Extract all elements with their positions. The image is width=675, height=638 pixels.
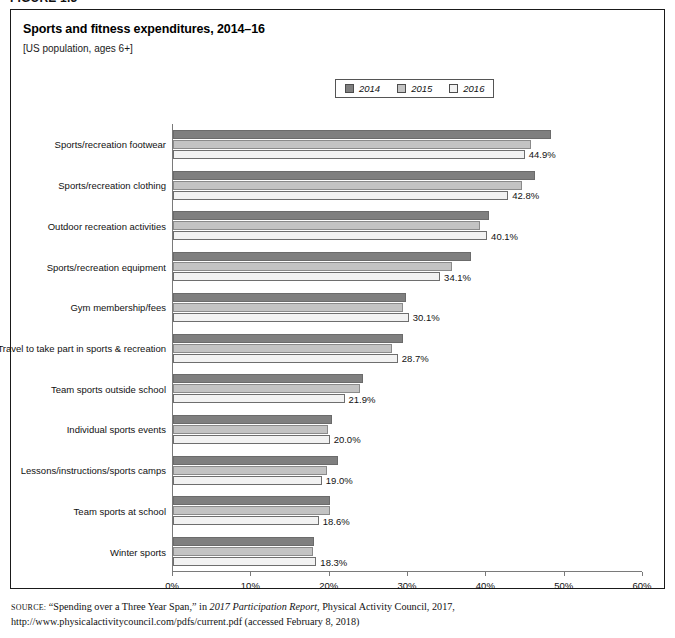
bar-group: Travel to take part in sports & recreati… xyxy=(172,334,642,363)
bar-2014 xyxy=(173,496,330,505)
category-label: Travel to take part in sports & recreati… xyxy=(0,343,166,354)
bar-2014 xyxy=(173,334,403,343)
legend-entry-2014: 2014 xyxy=(345,83,380,94)
x-axis-tick-label: 20% xyxy=(319,580,338,591)
bar-2015 xyxy=(173,547,313,556)
bar-value-label: 30.1% xyxy=(413,312,440,323)
x-axis-tick-label: 10% xyxy=(241,580,260,591)
bar-2015 xyxy=(173,303,403,312)
category-label: Gym membership/fees xyxy=(70,302,166,313)
x-axis-tick-mark xyxy=(642,572,643,576)
bar-value-label: 18.3% xyxy=(320,556,347,567)
category-label: Sports/recreation equipment xyxy=(47,261,166,272)
x-axis-tick-mark xyxy=(172,572,173,576)
bar-value-label: 20.0% xyxy=(334,434,361,445)
bar-value-label: 21.9% xyxy=(349,393,376,404)
category-label: Winter sports xyxy=(110,546,166,557)
bar-2016: 19.0% xyxy=(173,476,322,485)
bar-2016: 18.6% xyxy=(173,516,319,525)
bar-2015 xyxy=(173,140,531,149)
legend-entry-2015: 2015 xyxy=(397,83,432,94)
bar-2014 xyxy=(173,456,338,465)
chart-plot-area: 0%10%20%30%40%50%60%Sports/recreation fo… xyxy=(172,124,642,572)
bar-2016: 18.3% xyxy=(173,557,316,566)
category-label: Outdoor recreation activities xyxy=(48,220,166,231)
x-axis-tick-label: 50% xyxy=(554,580,573,591)
bar-group: Sports/recreation clothing42.8% xyxy=(172,171,642,200)
bar-2015 xyxy=(173,466,327,475)
bar-group: Gym membership/fees30.1% xyxy=(172,293,642,322)
bar-value-label: 42.8% xyxy=(512,190,539,201)
bar-group: Team sports outside school21.9% xyxy=(172,374,642,403)
bar-group: Outdoor recreation activities40.1% xyxy=(172,211,642,240)
bar-2016: 30.1% xyxy=(173,313,409,322)
figure-title: Sports and fitness expenditures, 2014–16 xyxy=(23,22,265,36)
bar-2014 xyxy=(173,171,535,180)
bar-2016: 40.1% xyxy=(173,231,487,240)
category-label: Team sports outside school xyxy=(51,383,166,394)
bar-2015 xyxy=(173,425,328,434)
legend-label-2015: 2015 xyxy=(411,83,432,94)
bar-group: Sports/recreation footwear44.9% xyxy=(172,130,642,159)
x-axis-tick-label: 0% xyxy=(165,580,179,591)
category-label: Sports/recreation footwear xyxy=(55,139,166,150)
category-label: Lessons/instructions/sports camps xyxy=(21,465,166,476)
bar-group: Winter sports18.3% xyxy=(172,537,642,566)
x-axis-tick-label: 30% xyxy=(397,580,416,591)
chart-legend: 201420152016 xyxy=(335,79,494,98)
category-label: Sports/recreation clothing xyxy=(58,180,166,191)
bar-2016: 21.9% xyxy=(173,394,345,403)
bar-2014 xyxy=(173,415,332,424)
figure-subtitle: [US population, ages 6+] xyxy=(23,43,133,54)
source-label: SOURCE: xyxy=(11,603,46,612)
legend-entry-2016: 2016 xyxy=(449,83,484,94)
bar-value-label: 18.6% xyxy=(323,515,350,526)
bar-2014 xyxy=(173,537,314,546)
source-text-1: “Spending over a Three Year Span,” in xyxy=(46,601,209,612)
bar-2016: 44.9% xyxy=(173,150,525,159)
bar-group: Team sports at school18.6% xyxy=(172,496,642,525)
legend-swatch-icon-2014 xyxy=(345,84,354,93)
x-axis-tick-mark xyxy=(564,572,565,576)
category-label: Team sports at school xyxy=(74,505,166,516)
source-italic-title: 2017 Participation Report xyxy=(210,601,318,612)
bar-2014 xyxy=(173,211,489,220)
x-axis-tick-label: 40% xyxy=(476,580,495,591)
bar-value-label: 34.1% xyxy=(444,271,471,282)
legend-label-2014: 2014 xyxy=(359,83,380,94)
bar-2014 xyxy=(173,293,406,302)
bar-2015 xyxy=(173,344,392,353)
legend-swatch-icon-2015 xyxy=(397,84,406,93)
bar-value-label: 40.1% xyxy=(491,230,518,241)
bar-2014 xyxy=(173,252,471,261)
bar-value-label: 44.9% xyxy=(529,149,556,160)
bar-2015 xyxy=(173,262,452,271)
bar-2015 xyxy=(173,221,480,230)
bar-value-label: 19.0% xyxy=(326,475,353,486)
bar-group: Individual sports events20.0% xyxy=(172,415,642,444)
figure-number: FIGURE 1.3 xyxy=(10,0,77,5)
bar-value-label: 28.7% xyxy=(402,353,429,364)
bar-2014 xyxy=(173,374,363,383)
bar-group: Lessons/instructions/sports camps19.0% xyxy=(172,456,642,485)
x-axis-tick-mark xyxy=(407,572,408,576)
bar-2015 xyxy=(173,384,360,393)
x-axis-tick-mark xyxy=(329,572,330,576)
bar-2014 xyxy=(173,130,551,139)
category-label: Individual sports events xyxy=(67,424,166,435)
bar-group: Sports/recreation equipment34.1% xyxy=(172,252,642,281)
bar-2016: 20.0% xyxy=(173,435,330,444)
bar-2016: 34.1% xyxy=(173,272,440,281)
legend-swatch-icon-2016 xyxy=(449,84,458,93)
bar-2015 xyxy=(173,181,522,190)
x-axis-tick-mark xyxy=(485,572,486,576)
bar-2016: 42.8% xyxy=(173,191,508,200)
x-axis-tick-label: 60% xyxy=(632,580,651,591)
bar-2015 xyxy=(173,506,330,515)
source-note: SOURCE: “Spending over a Three Year Span… xyxy=(11,600,663,629)
x-axis-tick-mark xyxy=(250,572,251,576)
legend-label-2016: 2016 xyxy=(463,83,484,94)
bar-2016: 28.7% xyxy=(173,354,398,363)
